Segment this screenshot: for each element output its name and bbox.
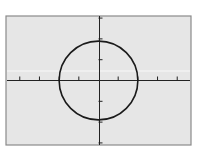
graph-screen xyxy=(0,0,198,154)
